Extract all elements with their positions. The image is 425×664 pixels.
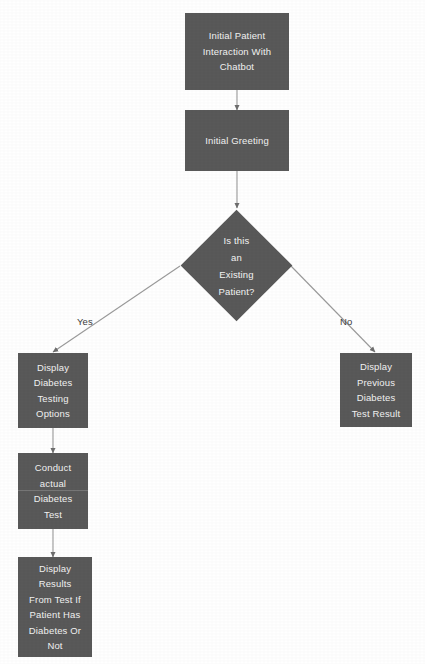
edge-label-no: No <box>340 316 352 328</box>
node-label: Display Diabetes Testing Options <box>20 360 86 422</box>
node-is-existing-patient-decision[interactable]: Is this an Existing Patient? <box>197 226 276 305</box>
node-label: Display Results From Test If Patient Has… <box>20 561 90 654</box>
node-initial-greeting[interactable]: Initial Greeting <box>185 110 289 171</box>
node-display-diabetes-testing-options[interactable]: Display Diabetes Testing Options <box>18 353 88 428</box>
node-label: Is this an Existing Patient? <box>218 232 254 300</box>
node-display-previous-diabetes-test-result[interactable]: Display Previous Diabetes Test Result <box>340 353 412 427</box>
flowchart-canvas: Initial Patient Interaction With Chatbot… <box>0 0 425 664</box>
node-label: Conduct actual Diabetes Test <box>20 460 86 522</box>
node-conduct-actual-diabetes-test[interactable]: Conduct actual Diabetes Test <box>18 453 88 529</box>
node-initial-patient-interaction[interactable]: Initial Patient Interaction With Chatbot <box>185 13 289 90</box>
node-label: Initial Patient Interaction With Chatbot <box>187 28 287 75</box>
connector-decision-no <box>291 266 375 352</box>
edge-label-yes: Yes <box>77 316 93 328</box>
node-label: Initial Greeting <box>187 133 287 149</box>
node-label: Display Previous Diabetes Test Result <box>342 359 410 421</box>
node-display-results-from-test[interactable]: Display Results From Test If Patient Has… <box>18 557 92 657</box>
connector-decision-yes <box>53 266 180 352</box>
